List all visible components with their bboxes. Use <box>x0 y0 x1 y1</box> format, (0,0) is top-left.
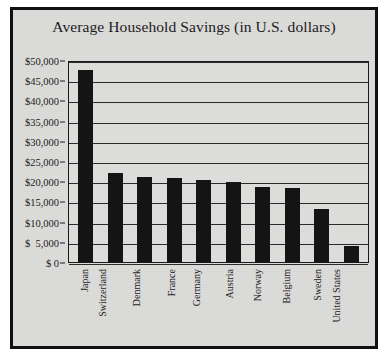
chart-title: Average Household Savings (in U.S. dolla… <box>13 18 375 36</box>
bar-slot <box>101 62 131 262</box>
x-axis-label-slot: France <box>159 266 189 346</box>
y-axis-tick-mark <box>60 242 65 243</box>
x-axis-tick-label: Japan <box>79 269 90 292</box>
y-axis-tick-mark <box>60 182 65 183</box>
x-axis-label-slot: Austria <box>219 266 249 346</box>
chart-figure: Average Household Savings (in U.S. dolla… <box>10 7 378 349</box>
y-axis-tick-mark <box>60 121 65 122</box>
x-axis-tick-label: Austria <box>224 269 235 298</box>
y-axis-tick-label: $ 5,000 <box>25 237 59 248</box>
x-axis-tick-label: Sweden <box>312 269 323 301</box>
x-axis-label-slot: Denmark <box>129 266 159 346</box>
y-axis-tick-mark <box>60 162 65 163</box>
bar-slot <box>219 62 249 262</box>
gridline <box>69 264 368 265</box>
y-axis-tick-mark <box>60 141 65 142</box>
y-axis-tick-label: $15,000 <box>25 197 59 208</box>
bar <box>167 178 182 262</box>
x-axis-tick-label: Norway <box>252 269 263 301</box>
bar <box>314 209 329 262</box>
x-axis-label-slot: Norway <box>248 266 278 346</box>
y-axis-tick-label: $ 0 <box>46 258 59 269</box>
x-axis-label-slot: Japan <box>70 266 100 346</box>
x-axis-tick-label: United States <box>331 269 342 323</box>
bar <box>196 180 211 262</box>
y-axis: $ 0$ 5,000$10,000$15,000$20,000$25,000$3… <box>13 61 65 263</box>
bar <box>344 246 359 262</box>
y-axis-tick-mark <box>60 202 65 203</box>
x-axis-tick-label: Denmark <box>131 269 142 306</box>
y-axis-tick-label: $20,000 <box>25 177 59 188</box>
x-axis-label-slot: Belgium <box>278 266 308 346</box>
y-axis-tick-label: $30,000 <box>25 136 59 147</box>
bar <box>285 188 300 262</box>
x-axis-tick-label: Switzerland <box>96 269 107 317</box>
x-axis-tick-label: Germany <box>191 269 202 306</box>
y-axis-tick-mark <box>60 61 65 62</box>
y-axis-tick-mark <box>60 222 65 223</box>
bar-slot <box>307 62 337 262</box>
y-axis-tick-mark <box>60 101 65 102</box>
bar-slot <box>337 62 367 262</box>
y-axis-tick-mark <box>60 263 65 264</box>
bar <box>108 173 123 262</box>
x-axis-label-slot: United States <box>337 266 367 346</box>
bar <box>78 70 93 262</box>
bar-slot <box>248 62 278 262</box>
y-axis-tick-mark <box>60 81 65 82</box>
y-axis-tick-label: $40,000 <box>25 96 59 107</box>
bar-slot <box>278 62 308 262</box>
bar-slot <box>160 62 190 262</box>
plot-area <box>68 61 369 263</box>
y-axis-tick-label: $45,000 <box>25 76 59 87</box>
bar <box>137 177 152 262</box>
x-axis-tick-label: Belgium <box>281 269 292 303</box>
bar-series <box>69 62 368 262</box>
x-axis-tick-label: France <box>166 269 177 296</box>
bar-slot <box>130 62 160 262</box>
bar <box>255 187 270 262</box>
bar-slot <box>189 62 219 262</box>
x-axis-label-slot: Switzerland <box>100 266 130 346</box>
x-axis-label-slot: Germany <box>189 266 219 346</box>
y-axis-tick-label: $35,000 <box>25 116 59 127</box>
bar-slot <box>71 62 101 262</box>
y-axis-tick-label: $10,000 <box>25 217 59 228</box>
bar <box>226 182 241 262</box>
y-axis-tick-label: $50,000 <box>25 56 59 67</box>
y-axis-tick-label: $25,000 <box>25 157 59 168</box>
x-axis: JapanSwitzerlandDenmarkFranceGermanyAust… <box>68 266 369 346</box>
